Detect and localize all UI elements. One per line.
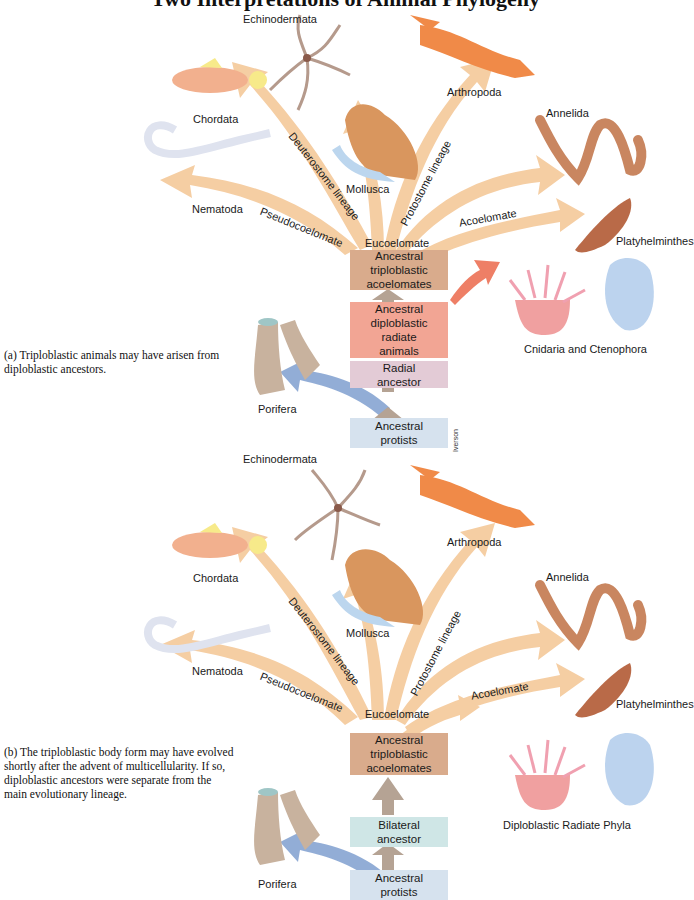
ctenophora-comb-jelly xyxy=(605,258,654,330)
taxon-label-arthropoda: Arthropoda xyxy=(447,536,501,548)
box-ancestral-diploblastic-radiate-animals: Ancestral diploblastic radiate animals xyxy=(350,302,448,358)
box-line: triploblastic xyxy=(370,263,428,277)
porifera-sponges xyxy=(254,788,320,865)
taxon-label-chordata: Chordata xyxy=(193,113,238,125)
box-line: protists xyxy=(380,433,417,447)
taxon-label-echinodermata: Echinodermata xyxy=(243,453,317,465)
panel-a-artwork xyxy=(0,0,691,460)
box-line: acoelomates xyxy=(366,277,431,291)
cnidaria-anemone xyxy=(510,740,585,810)
taxon-label-nematoda: Nematoda xyxy=(192,203,243,215)
box-line: diploblastic xyxy=(371,316,428,330)
caption-a: (a) Triploblastic animals may have arise… xyxy=(4,348,234,376)
taxon-label-nematoda: Nematoda xyxy=(192,665,243,677)
caption-b: (b) The triploblastic body form may have… xyxy=(4,745,234,801)
nematoda-worm xyxy=(148,620,270,649)
arthropoda-crayfish xyxy=(410,465,535,528)
box-line: protists xyxy=(380,885,417,899)
box-ancestral-triploblastic-acoelomates: Ancestral triploblastic acoelomates xyxy=(350,733,448,775)
box-line: ancestor xyxy=(377,832,421,846)
radiate-arrow xyxy=(450,260,500,305)
taxon-label-platyhelminthes: Platyhelminthes xyxy=(616,698,694,710)
box-line: animals xyxy=(379,344,419,358)
taxon-label-platyhelminthes: Platyhelminthes xyxy=(616,235,694,247)
box-radial-ancestor: Radial ancestor xyxy=(350,361,448,388)
box-bilateral-ancestor: Bilateral ancestor xyxy=(350,817,448,847)
box-line: acoelomates xyxy=(366,761,431,775)
box-line: Bilateral xyxy=(378,818,420,832)
panel-a: Echinodermata Arthropoda Chordata Mollus… xyxy=(0,0,691,460)
taxon-label-chordata: Chordata xyxy=(193,572,238,584)
box-line: Ancestral xyxy=(375,419,423,433)
taxon-label-radiates: Cnidaria and Ctenophora xyxy=(524,343,647,355)
branch-label-eucoelomate: Eucoelomate xyxy=(365,237,429,249)
box-line: Ancestral xyxy=(375,733,423,747)
box-line: Ancestral xyxy=(375,249,423,263)
box-ancestral-triploblastic-acoelomates: Ancestral triploblastic acoelomates xyxy=(350,250,448,290)
taxon-label-porifera: Porifera xyxy=(258,403,297,415)
taxon-label-mollusca: Mollusca xyxy=(346,183,389,195)
mollusca-snail xyxy=(332,104,418,182)
taxon-label-arthropoda: Arthropoda xyxy=(447,86,501,98)
echinodermata-brittle-star xyxy=(295,470,380,560)
taxon-label-annelida: Annelida xyxy=(546,571,589,583)
box-ancestral-protists: Ancestral protists xyxy=(350,870,448,900)
box-line: Radial xyxy=(383,361,416,375)
nematoda-worm xyxy=(148,125,270,154)
ctenophora-comb-jelly xyxy=(605,733,654,805)
taxon-label-porifera: Porifera xyxy=(258,878,297,890)
taxon-label-annelida: Annelida xyxy=(546,107,589,119)
mollusca-snail xyxy=(332,549,423,627)
box-ancestral-protists: Ancestral protists xyxy=(350,418,448,448)
taxon-label-echinodermata: Echinodermata xyxy=(243,13,317,25)
box-line: triploblastic xyxy=(370,747,428,761)
taxon-label-radiates: Diploblastic Radiate Phyla xyxy=(503,819,631,831)
panel-b: Echinodermata Arthropoda Chordata Mollus… xyxy=(0,455,691,899)
box-line: ancestor xyxy=(377,375,421,389)
box-line: Ancestral xyxy=(375,302,423,316)
echinodermata-brittle-star xyxy=(270,15,350,110)
cnidaria-anemone xyxy=(510,265,585,335)
illustrator-credit: Iverson xyxy=(452,429,459,452)
porifera-sponges xyxy=(254,318,320,395)
branch-label-eucoelomate: Eucoelomate xyxy=(365,708,429,720)
box-line: Ancestral xyxy=(375,871,423,885)
box-line: radiate xyxy=(381,330,416,344)
taxon-label-mollusca: Mollusca xyxy=(346,627,389,639)
